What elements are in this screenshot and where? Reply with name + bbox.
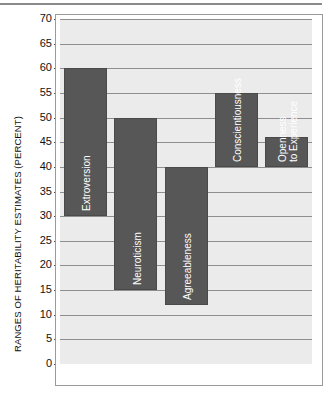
bar-label: Neuroticism	[132, 232, 143, 285]
y-tick-label: 15	[26, 284, 52, 295]
bar-conscientiousness: Conscientiousness	[215, 93, 258, 167]
gridline	[60, 19, 312, 20]
bar-extroversion: Extroversion	[64, 68, 107, 216]
y-tick-label: 20	[26, 259, 52, 270]
y-tick-label: 25	[26, 235, 52, 246]
y-tick-label: 50	[26, 112, 52, 123]
y-tick-label: 40	[26, 161, 52, 172]
gridline	[60, 315, 312, 316]
gridline	[60, 44, 312, 45]
page-top-rule	[0, 3, 322, 5]
y-tick-label: 65	[26, 38, 52, 49]
bar-openness-to-experience: Openness to Experience	[265, 137, 308, 167]
y-tick-label: 5	[26, 333, 52, 344]
bar-label: Openness to Experience	[277, 101, 299, 162]
y-tick-label: 60	[26, 62, 52, 73]
y-tick-label: 45	[26, 136, 52, 147]
gridline	[60, 339, 312, 340]
plot-area: ExtroversionNeuroticismAgreeablenessCons…	[60, 19, 312, 364]
y-axis-title: RANGES OF HERITABILITY ESTIMATES (PERCEN…	[12, 116, 23, 352]
bar-label: Agreeableness	[182, 233, 193, 300]
y-tick-label: 55	[26, 87, 52, 98]
y-tick-label: 0	[26, 358, 52, 369]
bar-neuroticism: Neuroticism	[114, 118, 157, 291]
y-tick-label: 10	[26, 309, 52, 320]
y-tick-label: 30	[26, 210, 52, 221]
bar-label: Extroversion	[81, 156, 92, 212]
heritability-range-chart: RANGES OF HERITABILITY ESTIMATES (PERCEN…	[0, 0, 328, 404]
y-tick-label: 35	[26, 186, 52, 197]
y-tick-label: 70	[26, 13, 52, 24]
bar-agreeableness: Agreeableness	[165, 167, 208, 305]
bar-label: Conscientiousness	[232, 78, 243, 162]
